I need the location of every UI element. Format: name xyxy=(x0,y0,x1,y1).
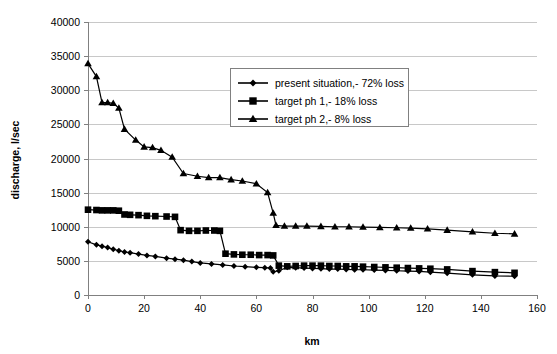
x-tick-label: 100 xyxy=(360,302,378,314)
data-point-square xyxy=(211,227,218,234)
data-point-square xyxy=(309,262,316,269)
series-square xyxy=(85,206,518,276)
data-point-square xyxy=(247,251,254,258)
data-point-square xyxy=(144,213,151,220)
data-point-square xyxy=(334,263,341,270)
data-point-square xyxy=(217,228,224,235)
series-diamond xyxy=(85,239,518,279)
data-point-diamond xyxy=(121,249,127,255)
y-tick-label: 30000 xyxy=(51,84,80,96)
y-tick-label: 35000 xyxy=(51,50,80,62)
data-point-square xyxy=(382,264,389,271)
data-point-diamond xyxy=(253,264,259,270)
data-point-square xyxy=(177,227,184,234)
data-point-square xyxy=(127,212,134,219)
x-tick-label: 160 xyxy=(528,302,546,314)
data-point-diamond xyxy=(220,262,226,268)
y-axis-title: discharge, l/sec xyxy=(9,120,21,199)
x-tick-labels: 020406080100120140160 xyxy=(85,302,546,314)
legend-label: present situation,- 72% loss xyxy=(275,77,404,89)
data-point-diamond xyxy=(180,257,186,263)
data-point-square xyxy=(256,252,263,259)
data-point-square xyxy=(203,227,210,234)
y-tick-label: 5000 xyxy=(57,255,81,267)
data-point-diamond xyxy=(99,243,105,249)
data-point-square xyxy=(343,263,350,270)
y-tick-label: 25000 xyxy=(51,118,80,130)
data-point-diamond xyxy=(127,250,133,256)
data-point-square xyxy=(393,264,400,271)
data-point-square xyxy=(427,265,434,272)
y-tick-label: 15000 xyxy=(51,187,80,199)
data-point-triangle xyxy=(272,222,280,229)
data-point-square xyxy=(511,270,518,277)
data-point-square xyxy=(326,263,333,270)
data-point-diamond xyxy=(116,248,122,254)
data-point-square xyxy=(104,207,111,214)
x-tick-label: 120 xyxy=(416,302,434,314)
data-point-square xyxy=(276,262,283,269)
x-axis-title: km xyxy=(304,335,319,347)
y-tick-label: 20000 xyxy=(51,153,80,165)
data-point-square xyxy=(492,269,499,276)
data-point-square xyxy=(172,214,179,221)
data-point-square xyxy=(239,251,246,258)
y-tick-labels: 0500010000150002000025000300003500040000 xyxy=(51,16,80,301)
data-point-triangle xyxy=(93,73,101,80)
data-point-diamond xyxy=(231,263,237,269)
data-point-diamond xyxy=(85,239,91,245)
data-point-square xyxy=(469,268,476,275)
legend: present situation,- 72% losstarget ph 1,… xyxy=(231,69,409,127)
data-point-diamond xyxy=(110,246,116,252)
data-point-diamond xyxy=(164,255,170,261)
data-point-square xyxy=(270,252,277,259)
discharge-vs-km-chart: 0500010000150002000025000300003500040000… xyxy=(0,0,557,354)
data-point-triangle xyxy=(269,209,277,216)
data-point-diamond xyxy=(136,251,142,257)
data-point-square xyxy=(360,263,367,270)
data-point-square xyxy=(194,228,201,235)
data-point-square xyxy=(264,252,271,259)
series-line-diamond xyxy=(88,242,515,276)
data-point-square xyxy=(135,212,142,219)
data-point-square xyxy=(186,228,193,235)
data-point-diamond xyxy=(144,252,150,258)
data-point-square xyxy=(152,213,159,220)
x-tick-label: 20 xyxy=(138,302,150,314)
x-tick-label: 40 xyxy=(194,302,206,314)
data-point-diamond xyxy=(105,245,111,251)
data-point-square xyxy=(444,266,451,273)
y-tick-label: 0 xyxy=(74,289,80,301)
data-point-square xyxy=(110,207,117,214)
data-point-square xyxy=(284,263,291,270)
data-point-triangle xyxy=(84,60,92,67)
data-point-square xyxy=(371,264,378,271)
data-point-square xyxy=(416,265,423,272)
data-point-square xyxy=(85,206,92,213)
data-point-square xyxy=(405,265,412,272)
data-point-square xyxy=(163,213,170,220)
data-point-square xyxy=(318,262,325,269)
data-point-square xyxy=(93,207,100,214)
data-point-triangle xyxy=(121,125,129,132)
data-point-diamond xyxy=(262,265,268,271)
data-point-square xyxy=(121,211,128,218)
x-tick-label: 0 xyxy=(85,302,91,314)
data-point-diamond xyxy=(93,242,99,248)
legend-label: target ph 2,- 8% loss xyxy=(275,113,371,125)
legend-label: target ph 1,- 18% loss xyxy=(275,95,377,107)
data-point-square xyxy=(99,207,106,214)
data-point-square xyxy=(292,263,299,270)
data-point-square xyxy=(351,263,358,270)
data-point-diamond xyxy=(197,260,203,266)
data-point-square xyxy=(301,262,308,269)
data-point-square xyxy=(231,251,238,258)
y-tick-label: 40000 xyxy=(51,16,80,28)
x-tick-label: 80 xyxy=(307,302,319,314)
data-point-square xyxy=(222,250,229,257)
chart-container: 0500010000150002000025000300003500040000… xyxy=(0,0,557,354)
legend-marker-square xyxy=(249,97,256,104)
data-point-square xyxy=(116,207,123,214)
data-point-diamond xyxy=(242,264,248,270)
x-tick-label: 140 xyxy=(472,302,490,314)
